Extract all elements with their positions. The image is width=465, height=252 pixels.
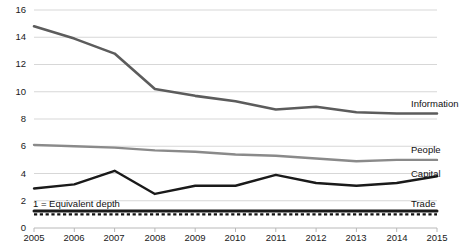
series-label-people: People	[411, 144, 441, 155]
equivalent-depth-annotation: 1 = Equivalent depth	[33, 198, 120, 209]
x-tick-label-2015: 2015	[417, 232, 457, 243]
x-tick-label-2005: 2005	[14, 232, 54, 243]
x-tick-label-2006: 2006	[54, 232, 94, 243]
x-tick-label-2012: 2012	[296, 232, 336, 243]
x-tick-label-2014: 2014	[377, 232, 417, 243]
series-label-capital: Capital	[411, 168, 441, 179]
gridlines	[34, 10, 437, 201]
x-tick-label-2011: 2011	[256, 232, 296, 243]
x-tick-label-2007: 2007	[94, 232, 134, 243]
y-tick-label-16: 16	[2, 5, 26, 15]
plot-area	[0, 0, 465, 252]
x-tick-label-2008: 2008	[135, 232, 175, 243]
line-chart: 16 14 12 10 8 6 4 2 0 2005 2006 2007 200…	[0, 0, 465, 252]
y-tick-label-6: 6	[2, 141, 26, 151]
y-tick-label-14: 14	[2, 32, 26, 42]
series-label-trade: Trade	[411, 198, 435, 209]
series-line-information	[34, 26, 437, 113]
series-line-capital	[34, 171, 437, 194]
series-line-people	[34, 145, 437, 161]
x-tick-label-2009: 2009	[175, 232, 215, 243]
x-tick-label-2010: 2010	[215, 232, 255, 243]
y-tick-label-12: 12	[2, 59, 26, 69]
y-tick-label-10: 10	[2, 87, 26, 97]
x-tick-label-2013: 2013	[336, 232, 376, 243]
y-tick-label-8: 8	[2, 114, 26, 124]
y-tick-label-2: 2	[2, 196, 26, 206]
series-label-information: Information	[411, 98, 459, 109]
y-tick-label-4: 4	[2, 169, 26, 179]
